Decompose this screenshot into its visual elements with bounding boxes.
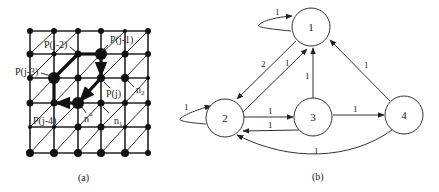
weight-1-1: 1 xyxy=(275,7,280,17)
weight-3-2: 1 xyxy=(268,120,273,130)
figure: P(j-2) P(j-1) P(j-3) P(j) P(j-4) n* n1 n… xyxy=(0,0,439,192)
weight-4-2: 1 xyxy=(314,146,319,156)
weight-4-1: 1 xyxy=(364,60,369,70)
weight-1-2: 2 xyxy=(261,59,266,69)
edge-4-1 xyxy=(330,40,390,101)
weight-2-2: 1 xyxy=(184,102,189,112)
label-pj: P(j) xyxy=(106,88,121,100)
graph-edges xyxy=(180,16,392,154)
panel-a-lattice: P(j-2) P(j-1) P(j-3) P(j) P(j-4) n* n1 n… xyxy=(15,28,151,184)
graph-nodes: 1 2 3 4 xyxy=(206,8,423,137)
graph-node-2: 2 xyxy=(206,99,244,137)
weight-3-4: 1 xyxy=(353,104,358,114)
edge-2-1 xyxy=(243,49,307,112)
node-label-1: 1 xyxy=(308,21,314,33)
node-label-2: 2 xyxy=(222,112,228,124)
label-n2: n2 xyxy=(136,84,145,97)
label-pj1: P(j-1) xyxy=(110,34,133,46)
label-n1: n1 xyxy=(114,115,123,128)
label-pj2: P(j-2) xyxy=(44,39,67,51)
weight-2-3: 1 xyxy=(268,106,273,116)
caption-a: (a) xyxy=(78,172,89,184)
graph-node-4: 4 xyxy=(385,96,423,134)
label-pj3: P(j-3) xyxy=(15,66,38,78)
panel-b-graph: 1 2 1 1 1 1 1 1 1 1 1 2 3 xyxy=(180,7,423,183)
weight-3-1: 1 xyxy=(305,71,310,81)
edge-1-2 xyxy=(237,41,296,99)
weight-2-1: 1 xyxy=(285,58,290,68)
label-pj4: P(j-4) xyxy=(33,115,56,127)
node-label-3: 3 xyxy=(310,111,316,123)
caption-b: (b) xyxy=(312,171,324,183)
edge-1-1 xyxy=(258,16,292,31)
node-label-4: 4 xyxy=(401,109,407,121)
graph-node-1: 1 xyxy=(292,8,330,46)
edge-3-2 xyxy=(243,130,299,131)
label-nstar: n* xyxy=(84,112,93,124)
graph-node-3: 3 xyxy=(294,98,332,136)
